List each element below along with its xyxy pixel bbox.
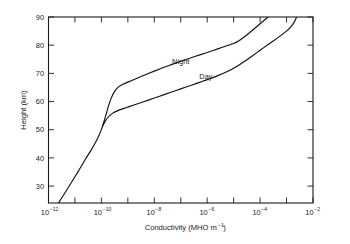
svg-text:10: 10 — [252, 208, 260, 217]
y-tick-label-40: 40 — [36, 154, 44, 163]
x-axis-title: Conductivity (MHO m−1) — [145, 222, 227, 232]
x-axis-title-text: Conductivity (MHO m — [145, 223, 217, 232]
svg-text:10: 10 — [147, 208, 155, 217]
svg-text:10: 10 — [305, 208, 313, 217]
y-axis-title: Height (km) — [19, 90, 28, 130]
chart-figure: 30405060708090 10−1210−1010−810−610−410−… — [0, 0, 350, 244]
svg-text:−12: −12 — [50, 206, 59, 212]
svg-text:−6: −6 — [209, 206, 215, 212]
y-tick-label-50: 50 — [36, 125, 44, 134]
svg-text:−4: −4 — [261, 206, 267, 212]
annotation-night: Night — [172, 57, 189, 66]
svg-text:10: 10 — [41, 208, 49, 217]
y-tick-label-30: 30 — [36, 182, 44, 191]
svg-text:10: 10 — [199, 208, 207, 217]
y-axis-title-text: Height (km) — [19, 90, 28, 130]
svg-text:Conductivity (MHO m: Conductivity (MHO m — [145, 223, 217, 232]
svg-text:−10: −10 — [103, 206, 112, 212]
conductivity-height-line-chart: 30405060708090 10−1210−1010−810−610−410−… — [0, 0, 350, 244]
y-tick-label-70: 70 — [36, 69, 44, 78]
y-tick-label-80: 80 — [36, 41, 44, 50]
svg-text:−2: −2 — [314, 206, 320, 212]
y-tick-label-90: 90 — [36, 13, 44, 22]
annotation-day: Day — [199, 72, 212, 81]
y-tick-label-60: 60 — [36, 97, 44, 106]
svg-text:−8: −8 — [156, 206, 162, 212]
svg-text:10: 10 — [94, 208, 102, 217]
